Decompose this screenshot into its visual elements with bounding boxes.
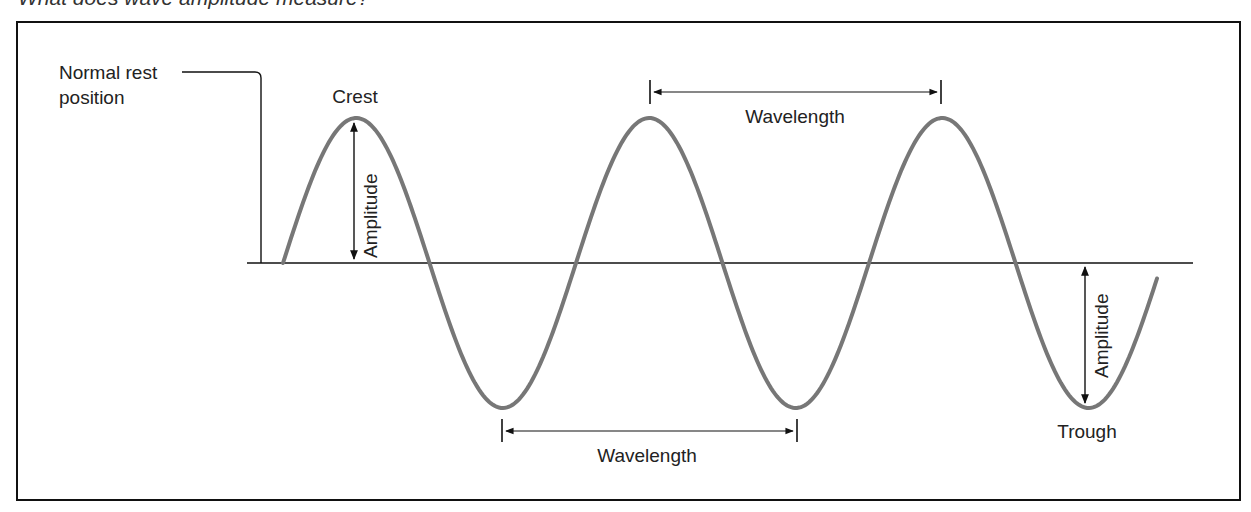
amplitude-label-trough: Amplitude [1091,294,1112,379]
trough-label: Trough [1057,421,1117,442]
wave-diagram: Amplitude Amplitude Wavelength Wavelengt… [0,0,1251,512]
wavelength-label-bottom: Wavelength [597,445,697,466]
rest-position-leader [182,72,261,263]
wavelength-label-top: Wavelength [745,106,845,127]
rest-position-label-line2: position [59,87,125,108]
amplitude-label-crest: Amplitude [360,174,381,259]
rest-position-label-line1: Normal rest [59,62,158,83]
crest-label: Crest [332,86,378,107]
